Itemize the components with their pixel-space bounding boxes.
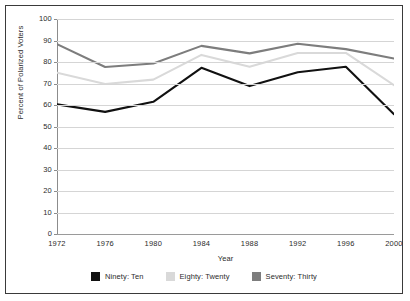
x-axis-tick-label: 2000 bbox=[385, 239, 403, 248]
legend-item: Eighty: Twenty bbox=[166, 272, 230, 281]
gridline bbox=[57, 62, 394, 63]
gridline bbox=[57, 213, 394, 214]
legend-swatch-icon bbox=[252, 272, 261, 281]
gridline bbox=[57, 41, 394, 42]
gridline bbox=[57, 84, 394, 85]
y-axis-tick-label: 20 bbox=[12, 186, 52, 195]
x-axis-tick-label: 1980 bbox=[145, 239, 163, 248]
gridline bbox=[57, 191, 394, 192]
chart-legend: Ninety: TenEighty: TwentySeventy: Thirty bbox=[6, 272, 402, 281]
y-axis-tick-mark bbox=[54, 170, 57, 171]
y-axis-tick-labels: 0102030405060708090100 bbox=[6, 19, 52, 235]
chart-figure: 0102030405060708090100 19721976198019841… bbox=[5, 5, 403, 294]
gridline bbox=[57, 148, 394, 149]
y-axis-tick-mark bbox=[54, 41, 57, 42]
x-axis-tick-label: 1992 bbox=[289, 239, 307, 248]
y-axis-tick-mark bbox=[54, 191, 57, 192]
y-axis-tick-mark bbox=[54, 234, 57, 235]
x-axis-tick-label: 1988 bbox=[241, 239, 259, 248]
gridline bbox=[57, 170, 394, 171]
legend-label: Seventy: Thirty bbox=[266, 272, 317, 281]
plot-area bbox=[57, 19, 394, 234]
y-axis-tick-mark bbox=[54, 105, 57, 106]
y-axis-tick-mark bbox=[54, 84, 57, 85]
legend-label: Ninety: Ten bbox=[105, 272, 143, 281]
y-axis-tick-mark bbox=[54, 213, 57, 214]
x-axis-tick-label: 1984 bbox=[193, 239, 211, 248]
x-axis-tick-label: 1996 bbox=[337, 239, 355, 248]
x-axis-title: Year bbox=[57, 254, 394, 263]
legend-label: Eighty: Twenty bbox=[180, 272, 230, 281]
y-axis-tick-mark bbox=[54, 62, 57, 63]
legend-item: Ninety: Ten bbox=[91, 272, 143, 281]
gridline bbox=[57, 234, 394, 235]
y-axis-tick-mark bbox=[54, 19, 57, 20]
y-axis-tick-label: 10 bbox=[12, 208, 52, 217]
legend-item: Seventy: Thirty bbox=[252, 272, 317, 281]
gridline bbox=[57, 105, 394, 106]
gridline bbox=[57, 127, 394, 128]
x-axis-tick-label: 1976 bbox=[96, 239, 114, 248]
x-axis-tick-label: 1972 bbox=[48, 239, 66, 248]
x-axis-tick-labels: 19721976198019841988199219962000 bbox=[57, 239, 394, 253]
y-axis-tick-label: 0 bbox=[12, 229, 52, 238]
gridline bbox=[57, 19, 394, 20]
y-axis-tick-label: 30 bbox=[12, 165, 52, 174]
y-axis-tick-mark bbox=[54, 148, 57, 149]
y-axis-tick-mark bbox=[54, 127, 57, 128]
gridlines bbox=[57, 19, 394, 234]
y-axis-title: Percent of Polarized Voters bbox=[16, 3, 25, 143]
legend-swatch-icon bbox=[91, 272, 100, 281]
legend-swatch-icon bbox=[166, 272, 175, 281]
y-axis-tick-label: 40 bbox=[12, 143, 52, 152]
